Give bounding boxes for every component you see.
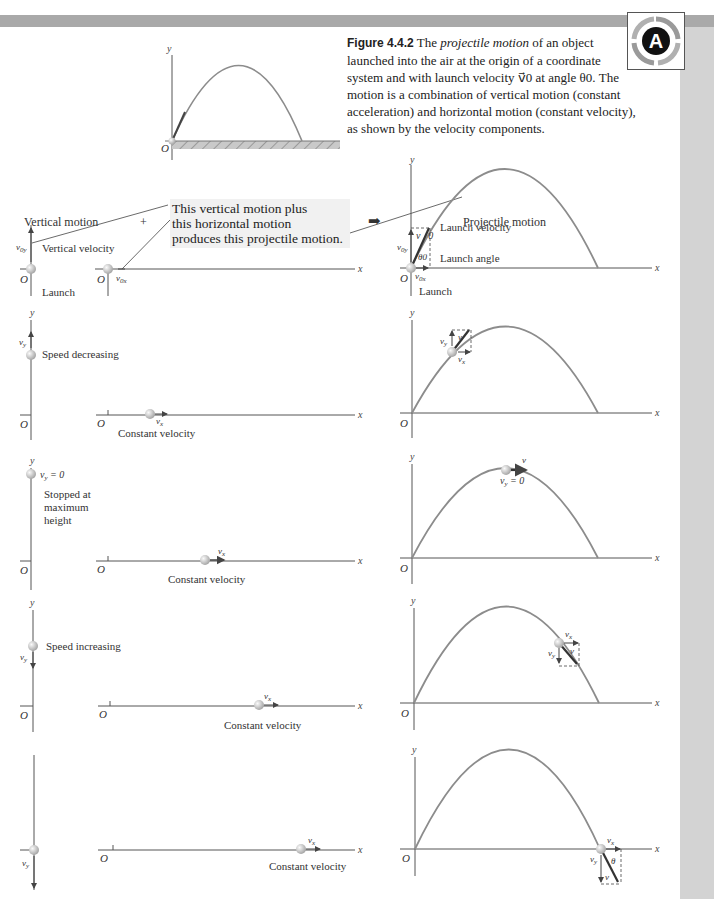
svg-text:y: y bbox=[409, 307, 415, 318]
svg-text:O: O bbox=[400, 272, 408, 284]
svg-text:vy: vy bbox=[440, 336, 448, 348]
svg-text:Launch angle: Launch angle bbox=[440, 252, 500, 264]
projectile-diagram: y O v0y Vertical velocity O Launch O v0x… bbox=[0, 0, 714, 899]
svg-text:y: y bbox=[409, 154, 415, 165]
svg-text:v⃗0: v⃗0 bbox=[416, 230, 433, 241]
svg-text:θ: θ bbox=[611, 856, 616, 866]
svg-text:O: O bbox=[97, 273, 105, 285]
svg-text:O: O bbox=[20, 418, 28, 430]
svg-text:v0x: v0x bbox=[415, 271, 427, 283]
svg-text:v0y: v0y bbox=[16, 242, 28, 254]
row-falling: y vy Speed increasing O O vx Constant ve… bbox=[20, 595, 660, 732]
svg-text:x: x bbox=[654, 843, 660, 854]
svg-text:vy: vy bbox=[19, 337, 27, 349]
svg-text:vy = 0: vy = 0 bbox=[40, 469, 64, 482]
svg-text:O: O bbox=[161, 142, 169, 154]
svg-text:y: y bbox=[29, 307, 35, 318]
svg-text:O: O bbox=[401, 707, 409, 719]
svg-text:vy: vy bbox=[20, 652, 28, 664]
svg-text:x: x bbox=[654, 407, 660, 418]
svg-text:Launch velocity: Launch velocity bbox=[440, 221, 512, 233]
svg-text:O: O bbox=[402, 852, 410, 864]
svg-text:maximum: maximum bbox=[44, 501, 89, 513]
svg-text:vy: vy bbox=[590, 854, 598, 866]
svg-text:v⃗: v⃗ bbox=[522, 455, 533, 465]
svg-text:θ0: θ0 bbox=[418, 252, 427, 262]
svg-text:Stopped at: Stopped at bbox=[44, 488, 91, 500]
svg-text:x: x bbox=[654, 552, 660, 563]
svg-text:O: O bbox=[100, 852, 108, 864]
svg-text:O: O bbox=[97, 417, 105, 429]
svg-text:x: x bbox=[357, 555, 363, 566]
svg-text:Constant velocity: Constant velocity bbox=[224, 719, 302, 731]
svg-text:Speed decreasing: Speed decreasing bbox=[42, 348, 119, 360]
svg-text:y: y bbox=[409, 451, 415, 462]
svg-text:O: O bbox=[400, 562, 408, 574]
svg-text:Constant velocity: Constant velocity bbox=[168, 573, 246, 585]
svg-text:x: x bbox=[654, 697, 660, 708]
svg-text:x: x bbox=[357, 700, 363, 711]
svg-text:O: O bbox=[400, 417, 408, 429]
svg-text:vx: vx bbox=[458, 354, 466, 366]
svg-text:Vertical velocity: Vertical velocity bbox=[42, 242, 115, 254]
svg-text:vy: vy bbox=[548, 648, 556, 660]
svg-text:vx: vx bbox=[264, 691, 272, 703]
svg-text:Constant velocity: Constant velocity bbox=[118, 427, 196, 439]
row-launch: v0y Vertical velocity O Launch O v0x x y… bbox=[16, 154, 660, 298]
svg-text:O: O bbox=[97, 563, 105, 575]
svg-text:Launch: Launch bbox=[419, 285, 452, 297]
svg-text:x: x bbox=[357, 844, 363, 855]
row-peak: y vy = 0 Stopped at maximum height O O v… bbox=[20, 451, 660, 590]
svg-text:v⃗: v⃗ bbox=[458, 332, 469, 342]
svg-text:Speed increasing: Speed increasing bbox=[46, 640, 121, 652]
svg-text:O: O bbox=[99, 708, 107, 720]
svg-text:x: x bbox=[357, 409, 363, 420]
svg-text:vx: vx bbox=[607, 835, 615, 847]
svg-text:O: O bbox=[20, 273, 28, 285]
svg-text:y: y bbox=[29, 455, 35, 466]
overview-trajectory-figure: y O bbox=[161, 43, 340, 160]
svg-text:vy: vy bbox=[22, 858, 30, 870]
svg-text:vx: vx bbox=[308, 835, 316, 847]
svg-text:y: y bbox=[411, 744, 417, 755]
row-landing: vy O vx Constant velocity x y x vx vy θ … bbox=[20, 744, 660, 890]
svg-text:y: y bbox=[29, 597, 35, 608]
svg-text:v0y: v0y bbox=[397, 242, 409, 254]
svg-text:v⃗: v⃗ bbox=[570, 646, 581, 656]
svg-text:O: O bbox=[20, 564, 28, 576]
svg-text:x: x bbox=[357, 263, 363, 274]
svg-text:v⃗: v⃗ bbox=[605, 872, 616, 882]
svg-text:y: y bbox=[410, 595, 416, 606]
row-rising: y vy Speed decreasing O O vx Constant ve… bbox=[19, 307, 660, 440]
svg-text:vx: vx bbox=[565, 629, 573, 641]
svg-text:height: height bbox=[44, 514, 72, 526]
svg-text:Constant velocity: Constant velocity bbox=[269, 860, 347, 872]
svg-text:y: y bbox=[166, 43, 172, 54]
svg-text:Launch: Launch bbox=[42, 286, 75, 298]
svg-text:vy = 0: vy = 0 bbox=[500, 475, 524, 488]
svg-text:x: x bbox=[654, 262, 660, 273]
svg-text:vx: vx bbox=[218, 546, 226, 558]
svg-text:v0x: v0x bbox=[116, 273, 128, 285]
svg-text:O: O bbox=[20, 709, 28, 721]
